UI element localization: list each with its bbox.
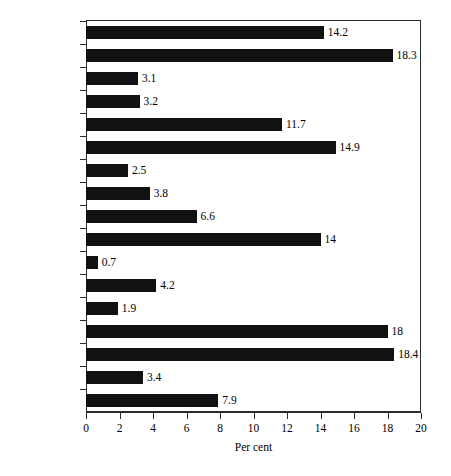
y-axis-tick	[80, 113, 86, 114]
y-axis-tick	[80, 159, 86, 160]
x-axis-tick	[354, 413, 355, 419]
x-axis-tick	[220, 413, 221, 419]
y-axis-tick	[80, 21, 86, 22]
x-axis-tick-label: 6	[172, 421, 202, 435]
y-axis-tick	[80, 67, 86, 68]
bar-value-label: 2.5	[132, 164, 146, 177]
x-axis-tick-label: 18	[373, 421, 403, 435]
x-axis-tick-label: 10	[239, 421, 269, 435]
bar	[86, 95, 140, 108]
bar-value-label: 6.6	[201, 210, 215, 223]
bar-value-label: 14	[325, 233, 337, 246]
bar	[86, 72, 138, 85]
x-axis-tick	[287, 413, 288, 419]
bar-value-label: 11.7	[286, 118, 306, 131]
y-axis-tick	[80, 251, 86, 252]
y-axis-tick	[80, 90, 86, 91]
y-axis-tick	[80, 320, 86, 321]
bar-value-label: 3.4	[147, 371, 161, 384]
y-axis-tick	[80, 205, 86, 206]
x-axis-tick	[86, 413, 87, 419]
bar	[86, 348, 394, 361]
bar	[86, 49, 393, 62]
x-axis-tick	[321, 413, 322, 419]
bar-value-label: 3.8	[154, 187, 168, 200]
bar-value-label: 3.1	[142, 72, 156, 85]
bar	[86, 279, 156, 292]
bar	[86, 371, 143, 384]
bar-value-label: 4.2	[160, 279, 174, 292]
x-axis-tick-label: 20	[406, 421, 436, 435]
x-axis-tick-label: 8	[205, 421, 235, 435]
x-axis-tick	[421, 413, 422, 419]
bar-value-label: 1.9	[122, 302, 136, 315]
x-axis-tick	[388, 413, 389, 419]
bar	[86, 302, 118, 315]
x-axis-tick-label: 0	[71, 421, 101, 435]
y-axis-tick	[80, 389, 86, 390]
bar-value-label: 18.4	[398, 348, 418, 361]
x-axis-tick	[120, 413, 121, 419]
bar	[86, 210, 197, 223]
bar-value-label: 0.7	[102, 256, 116, 269]
bar	[86, 187, 150, 200]
y-axis-tick	[80, 343, 86, 344]
x-axis-tick	[254, 413, 255, 419]
y-axis-tick	[80, 182, 86, 183]
bar-value-label: 18.3	[397, 49, 417, 62]
bar	[86, 141, 336, 154]
y-axis-tick	[80, 274, 86, 275]
x-axis-tick-label: 12	[272, 421, 302, 435]
x-axis-title: Per cent	[0, 440, 451, 454]
bar	[86, 256, 98, 269]
y-axis-tick	[80, 44, 86, 45]
bar	[86, 164, 128, 177]
y-axis-tick	[80, 297, 86, 298]
bar-value-label: 14.2	[328, 26, 348, 39]
x-axis-tick-label: 2	[105, 421, 135, 435]
x-axis-tick-label: 16	[339, 421, 369, 435]
bar-value-label: 18	[392, 325, 404, 338]
bar	[86, 118, 282, 131]
bar-value-label: 14.9	[340, 141, 360, 154]
x-axis-title-text: Per cent	[235, 441, 272, 453]
bar	[86, 26, 324, 39]
bar	[86, 325, 388, 338]
y-axis-tick	[80, 228, 86, 229]
x-axis-tick	[153, 413, 154, 419]
x-axis-tick-label: 4	[138, 421, 168, 435]
y-axis-tick	[80, 136, 86, 137]
y-axis-tick	[80, 366, 86, 367]
bar	[86, 394, 218, 407]
bar	[86, 233, 321, 246]
bar-value-label: 7.9	[222, 394, 236, 407]
bar-value-label: 3.2	[144, 95, 158, 108]
x-axis-tick	[187, 413, 188, 419]
x-axis-tick-label: 14	[306, 421, 336, 435]
bar-chart: UK14.2Sweden18.3Spain3.1Portugal3.2Norwa…	[0, 0, 451, 476]
